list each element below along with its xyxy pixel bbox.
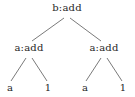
tree-node-left-add: a:add <box>14 42 43 53</box>
edge-left-child-to-leaf-1 <box>32 58 47 81</box>
tree-node-root: b:add <box>52 2 82 13</box>
edge-right-child-to-leaf-1 <box>107 58 122 81</box>
tree-leaf-left-a: a <box>7 82 13 93</box>
edge-root-to-right-child <box>70 18 101 41</box>
tree-leaf-right-a: a <box>82 82 88 93</box>
tree-leaf-right-1: 1 <box>120 82 127 93</box>
tree-leaf-left-1: 1 <box>45 82 52 93</box>
expression-tree-figure: b:add a:add a:add a 1 a 1 <box>0 0 135 97</box>
edge-right-child-to-leaf-a <box>86 58 101 81</box>
edge-left-child-to-leaf-a <box>11 58 26 81</box>
edge-root-to-left-child <box>32 18 64 41</box>
tree-node-right-add: a:add <box>89 42 118 53</box>
